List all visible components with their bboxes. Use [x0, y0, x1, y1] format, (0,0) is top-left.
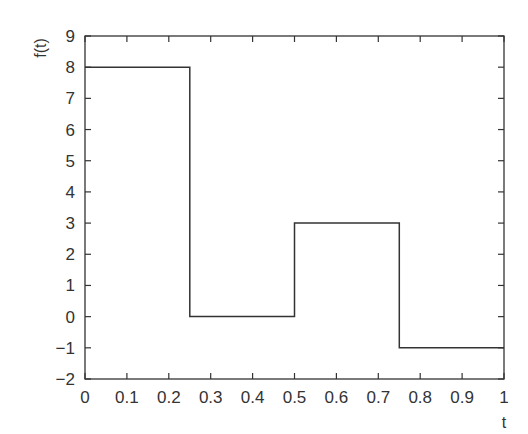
y-tick-label: 9: [66, 27, 75, 46]
x-tick-label: 0.6: [325, 388, 349, 407]
y-tick-label: 3: [66, 214, 75, 233]
y-axis-label: f(t): [32, 38, 49, 58]
x-tick-label: 0.8: [408, 388, 432, 407]
axis-ticks: [85, 36, 504, 379]
x-tick-label: 1: [499, 388, 508, 407]
x-tick-label: 0.5: [283, 388, 307, 407]
y-tick-label: 7: [66, 89, 75, 108]
step-series-line: [85, 67, 504, 348]
y-tick-label: 8: [66, 58, 75, 77]
y-tick-label: −2: [56, 370, 75, 389]
x-tick-label: 0.2: [157, 388, 181, 407]
x-tick-label: 0.3: [199, 388, 223, 407]
y-tick-label: −1: [56, 339, 75, 358]
y-tick-label: 2: [66, 245, 75, 264]
y-tick-labels: −2−10123456789: [56, 27, 75, 389]
x-tick-label: 0.7: [366, 388, 390, 407]
y-tick-label: 1: [66, 276, 75, 295]
x-axis-label: t: [502, 414, 507, 431]
x-tick-label: 0.1: [115, 388, 139, 407]
x-tick-label: 0: [80, 388, 89, 407]
y-tick-label: 0: [66, 308, 75, 327]
x-tick-label: 0.9: [450, 388, 474, 407]
step-function-chart: 00.10.20.30.40.50.60.70.80.91 −2−1012345…: [0, 0, 528, 434]
plot-area-border: [85, 36, 504, 379]
x-tick-label: 0.4: [241, 388, 265, 407]
y-tick-label: 5: [66, 152, 75, 171]
plot-frame: [85, 36, 504, 379]
y-tick-label: 6: [66, 121, 75, 140]
y-tick-label: 4: [66, 183, 75, 202]
x-tick-labels: 00.10.20.30.40.50.60.70.80.91: [80, 388, 508, 407]
